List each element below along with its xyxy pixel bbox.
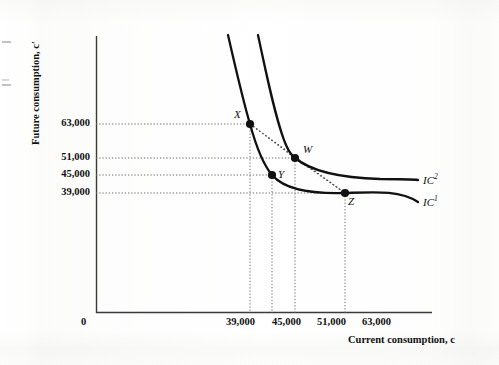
point-label-Z: Z	[348, 195, 354, 207]
data-point-W	[291, 154, 299, 162]
point-label-Y: Y	[278, 168, 284, 180]
curve-label-ic2: IC2	[423, 172, 438, 186]
y-tick-label-45000: 45,000	[28, 168, 90, 179]
point-label-X: X	[234, 108, 241, 120]
x-axis-title: Current consumption, c	[348, 334, 455, 345]
y-tick-label-51000: 51,000	[28, 151, 90, 162]
x-tick-label-45000: 45,000	[272, 316, 301, 327]
origin-label: 0	[81, 316, 86, 327]
point-label-W: W	[303, 143, 312, 155]
indifference-curve-1-path	[228, 35, 418, 202]
x-tick-label-39000: 39,000	[226, 316, 255, 327]
curve-label-ic2-text: IC	[423, 174, 434, 186]
curve-label-ic1-text: IC	[423, 196, 434, 208]
curve-label-ic1-superscript: 1	[434, 194, 438, 203]
y-tick-label-39000: 39,000	[28, 186, 90, 197]
y-axis-title: Future consumption, c′	[30, 41, 41, 145]
data-point-Y	[268, 171, 276, 179]
x-tick-label-51000: 51,000	[317, 316, 346, 327]
curve-label-ic1: IC1	[423, 194, 438, 208]
data-point-X	[246, 120, 254, 128]
x-tick-label-63000: 63,000	[362, 316, 391, 327]
curve-label-ic2-superscript: 2	[434, 172, 438, 181]
